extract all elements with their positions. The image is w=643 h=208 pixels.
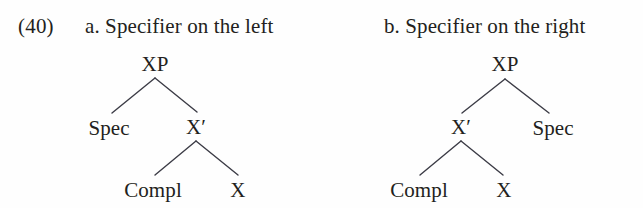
- tree-node-b-x: X: [496, 178, 511, 203]
- syntax-tree-figure: (40) a. Specifier on the left b. Specifi…: [0, 0, 643, 208]
- tree-node-b-compl: Compl: [390, 178, 448, 203]
- tree-node-b-spec: Spec: [532, 116, 573, 141]
- panel-b-nodes: XPX′SpecComplX: [0, 0, 643, 208]
- tree-node-b-xp: XP: [491, 52, 518, 77]
- tree-node-b-xbar: X′: [451, 115, 471, 140]
